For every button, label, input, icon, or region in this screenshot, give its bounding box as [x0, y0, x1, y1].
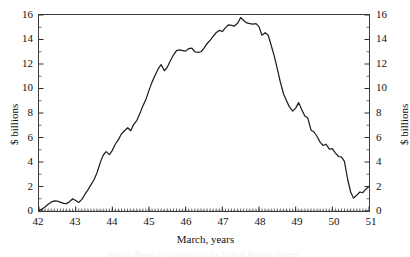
series-line-chart	[39, 15, 369, 211]
x-axis-tick-51: 51	[357, 216, 385, 227]
y-axis-left-title: $ billions	[8, 104, 20, 145]
x-axis-tick-48: 48	[246, 216, 274, 227]
y-axis-right-tick-8: 8	[376, 107, 382, 118]
y-axis-left-tick-8: 8	[28, 107, 34, 118]
y-axis-left-tick-2: 2	[28, 181, 34, 192]
x-axis-tick-46: 46	[172, 216, 200, 227]
y-axis-right-tick-2: 2	[376, 181, 382, 192]
data-series-line	[39, 17, 369, 210]
y-axis-right-tick-0: 0	[376, 205, 382, 216]
x-axis-tick-44: 44	[98, 216, 126, 227]
faint-caption: Source: Board of Governors of the Federa…	[0, 250, 407, 257]
x-axis-tick-47: 47	[209, 216, 237, 227]
x-axis-tick-45: 45	[135, 216, 163, 227]
x-axis-title: March, years	[0, 233, 407, 245]
y-axis-right-tick-12: 12	[376, 58, 387, 69]
x-axis-tick-49: 49	[283, 216, 311, 227]
x-axis-tick-42: 42	[24, 216, 52, 227]
y-axis-left-tick-10: 10	[22, 82, 33, 93]
y-axis-left-tick-6: 6	[28, 132, 34, 143]
plot-area	[38, 14, 370, 212]
y-axis-right-tick-6: 6	[376, 132, 382, 143]
axis-minor-ticks	[39, 27, 369, 211]
x-axis-title-text: March, years	[177, 233, 234, 245]
x-axis-tick-50: 50	[320, 216, 348, 227]
y-axis-left-tick-16: 16	[22, 9, 33, 20]
y-axis-right-tick-14: 14	[376, 33, 387, 44]
y-axis-right-tick-16: 16	[376, 9, 387, 20]
y-axis-left-tick-4: 4	[28, 156, 34, 167]
y-axis-right-title: $ billions	[398, 104, 410, 145]
axis-major-ticks	[39, 15, 369, 211]
x-axis-tick-43: 43	[61, 216, 89, 227]
y-axis-left-tick-14: 14	[22, 33, 33, 44]
y-axis-right-tick-4: 4	[376, 156, 382, 167]
y-axis-right-tick-10: 10	[376, 82, 387, 93]
y-axis-left-tick-12: 12	[22, 58, 33, 69]
